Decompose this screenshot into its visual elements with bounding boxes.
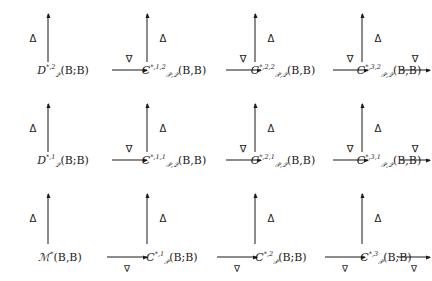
horizontal-arrow-label-r1-3: ∇ (347, 54, 354, 64)
node-r1c1: D*,2𝒬(B;B) (37, 65, 89, 76)
horizontal-arrow-r1-3 (333, 70, 368, 71)
horizontal-arrow-r3-4 (398, 257, 430, 258)
horizontal-arrow-label-r1-2: ∇ (240, 54, 247, 64)
node-arguments: (B;B) (60, 64, 88, 77)
vertical-arrow-c4-1 (362, 194, 363, 244)
node-superscript: *,1 (155, 250, 164, 258)
node-superscript: *,1 (46, 153, 55, 161)
node-subscript: 𝒫,𝒬 (381, 161, 393, 169)
horizontal-arrow-label-r2-4: ∇ (412, 144, 419, 154)
vertical-arrow-label-c2-2: Δ (160, 124, 167, 134)
vertical-arrow-label-c1-2: Δ (30, 124, 37, 134)
node-arguments: (B;B) (278, 251, 306, 264)
node-superscript: *,1,2 (150, 63, 166, 71)
horizontal-arrow-r3-3 (325, 257, 365, 258)
horizontal-arrow-r3-2 (217, 257, 257, 258)
node-r3c3: C*,2𝒫(B;B) (255, 252, 306, 263)
vertical-arrow-c1-2 (48, 104, 49, 152)
node-superscript: *,2 (264, 250, 273, 258)
node-subscript: 𝒫,𝒬 (381, 71, 393, 79)
node-superscript: *,1,1 (150, 153, 166, 161)
node-arguments: (B,B) (287, 64, 315, 77)
vertical-arrow-label-c4-3: Δ (375, 34, 382, 44)
commutative-diagram: D*,2𝒬(B;B) C*,1,2𝒫,𝒬(B,B) C*,2,2𝒫,𝒬(B,B)… (0, 0, 432, 281)
node-arguments: (B,B) (178, 64, 206, 77)
node-superscript: *,2 (46, 63, 55, 71)
node-superscript: *,3 (369, 250, 378, 258)
node-r2c1: D*,1𝒬(B;B) (37, 155, 89, 166)
vertical-arrow-c2-3 (147, 14, 148, 62)
horizontal-arrow-r1-2 (226, 70, 261, 71)
vertical-arrow-label-c3-1: Δ (268, 214, 275, 224)
node-arguments: (B,B) (178, 154, 206, 167)
vertical-arrow-c3-2 (255, 104, 256, 152)
node-r2c2: C*,1,1𝒫,𝒬(B,B) (142, 155, 206, 166)
horizontal-arrow-label-r2-2: ∇ (240, 144, 247, 154)
horizontal-arrow-r1-1 (112, 70, 147, 71)
vertical-arrow-label-c4-2: Δ (375, 124, 382, 134)
node-r3c2: C*,1𝒫(B;B) (146, 252, 197, 263)
vertical-arrow-c4-2 (362, 104, 363, 152)
node-subscript: 𝒫,𝒬 (166, 161, 178, 169)
vertical-arrow-c2-1 (147, 194, 148, 244)
horizontal-arrow-label-r3-2: ∇ (234, 265, 240, 274)
vertical-arrow-label-c3-2: Δ (268, 124, 275, 134)
vertical-arrow-label-c1-3: Δ (30, 34, 37, 44)
vertical-arrow-label-c3-3: Δ (268, 34, 275, 44)
node-arguments: (B;B) (169, 251, 197, 264)
horizontal-arrow-r2-2 (226, 160, 261, 161)
vertical-arrow-label-c2-3: Δ (160, 34, 167, 44)
horizontal-arrow-label-r1-1: ∇ (126, 54, 133, 64)
vertical-arrow-c2-2 (147, 104, 148, 152)
node-base: D (37, 154, 46, 167)
vertical-arrow-label-c1-1: Δ (30, 214, 37, 224)
vertical-arrow-c3-1 (255, 194, 256, 244)
horizontal-arrow-label-r2-1: ∇ (126, 144, 133, 154)
vertical-arrow-c3-3 (255, 14, 256, 62)
node-subscript: 𝒫,𝒬 (275, 71, 287, 79)
node-base: ℳ (38, 251, 50, 264)
node-r1c2: C*,1,2𝒫,𝒬(B,B) (142, 65, 206, 76)
horizontal-arrow-label-r3-1: ∇ (124, 265, 130, 274)
node-arguments: (B;B) (60, 154, 88, 167)
horizontal-arrow-r2-4 (400, 160, 430, 161)
horizontal-arrow-r2-1 (112, 160, 147, 161)
vertical-arrow-c1-3 (48, 14, 49, 62)
node-arguments: (B,B) (54, 251, 82, 264)
vertical-arrow-c4-3 (362, 14, 363, 62)
node-subscript: 𝒫,𝒬 (166, 71, 178, 79)
horizontal-arrow-label-r3-4: ∇ (411, 265, 417, 274)
horizontal-arrow-label-r3-3: ∇ (342, 265, 348, 274)
vertical-arrow-c1-1 (48, 194, 49, 244)
horizontal-arrow-r3-1 (107, 257, 147, 258)
vertical-arrow-label-c4-1: Δ (375, 214, 382, 224)
horizontal-arrow-r2-3 (333, 160, 368, 161)
node-arguments: (B,B) (287, 154, 315, 167)
vertical-arrow-label-c2-1: Δ (160, 214, 167, 224)
horizontal-arrow-label-r2-3: ∇ (347, 144, 354, 154)
horizontal-arrow-r1-4 (400, 70, 430, 71)
node-base: D (37, 64, 46, 77)
node-r3c1: ℳ*(B,B) (38, 252, 82, 263)
horizontal-arrow-label-r1-4: ∇ (412, 54, 419, 64)
node-subscript: 𝒫,𝒬 (275, 161, 287, 169)
